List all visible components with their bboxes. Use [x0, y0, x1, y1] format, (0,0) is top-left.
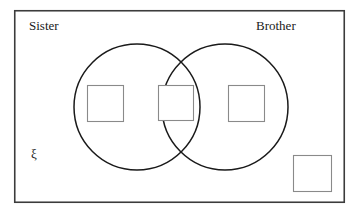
- universal-set-symbol: ξ: [31, 147, 37, 160]
- answer-box-intersection[interactable]: [159, 86, 194, 121]
- answer-box-brother-only[interactable]: [229, 86, 265, 122]
- answer-box-sister-only[interactable]: [88, 86, 124, 122]
- set-label-sister: Sister: [29, 19, 59, 32]
- set-label-brother: Brother: [256, 19, 296, 32]
- venn-diagram-canvas: Sister Brother ξ: [0, 0, 358, 213]
- answer-box-outside[interactable]: [294, 156, 332, 192]
